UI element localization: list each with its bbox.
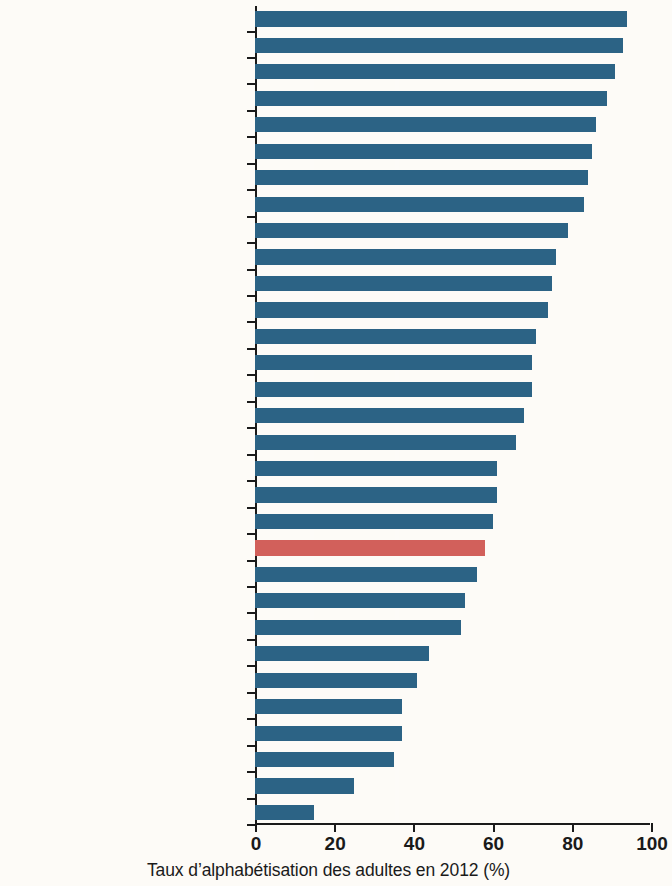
- bar: [255, 170, 588, 185]
- x-axis-tick-label: 20: [305, 833, 365, 855]
- x-axis-tick: [413, 823, 415, 832]
- chart-row: Malawi: [255, 456, 651, 482]
- chart-row: Cameroun: [255, 323, 651, 349]
- chart-row: Zambie: [255, 482, 651, 508]
- bar: [255, 805, 314, 820]
- chart-row: Togo: [255, 509, 651, 535]
- bar: [255, 620, 461, 635]
- bar: [255, 778, 354, 793]
- bar: [255, 673, 417, 688]
- y-axis-tick: [247, 507, 255, 509]
- bar: [255, 302, 548, 317]
- y-axis-tick: [247, 533, 255, 535]
- y-axis-tick: [247, 321, 255, 323]
- bar: [255, 117, 596, 132]
- chart-row: Afrique: [255, 535, 651, 561]
- bar: [255, 64, 615, 79]
- chart-row: Ouganda: [255, 271, 651, 297]
- chart-row: République du Congo: [255, 218, 651, 244]
- chart-row: Tchad: [255, 694, 651, 720]
- x-axis-tick-label: 80: [543, 833, 603, 855]
- x-axis-tick-label: 100: [622, 833, 672, 855]
- y-axis-tick: [247, 560, 255, 562]
- y-axis-tick: [247, 163, 255, 165]
- y-axis-tick: [247, 295, 255, 297]
- chart-row: Guinée équatoriale: [255, 6, 651, 32]
- y-axis-tick: [247, 189, 255, 191]
- x-axis-title: Taux d’alphabétisation des adultes en 20…: [0, 860, 657, 881]
- y-axis-tick: [247, 665, 255, 667]
- y-axis-tick: [247, 136, 255, 138]
- chart-row: Niger: [255, 800, 651, 826]
- chart-row: Érythrée: [255, 376, 651, 402]
- y-axis-tick: [247, 83, 255, 85]
- x-axis-tick: [493, 823, 495, 832]
- chart-row: Botswana: [255, 112, 651, 138]
- bar: [255, 329, 536, 344]
- x-axis-tick-label: 40: [384, 833, 444, 855]
- bar: [255, 726, 402, 741]
- y-axis-tick: [247, 718, 255, 720]
- plot-area: Guinée équatorialeAfrique du SudSeychell…: [255, 6, 651, 824]
- chart-row: Côte d’Ivoire: [255, 667, 651, 693]
- bar: [255, 752, 394, 767]
- y-axis-tick: [247, 480, 255, 482]
- y-axis-tick: [247, 31, 255, 33]
- chart-row: Zimbabwe: [255, 191, 651, 217]
- y-axis-tick: [247, 216, 255, 218]
- x-axis-tick: [255, 823, 257, 832]
- bar: [255, 38, 623, 53]
- y-axis-tick: [247, 639, 255, 641]
- chart-row: Seychelles: [255, 59, 651, 85]
- y-axis-tick: [247, 348, 255, 350]
- x-axis-tick-label: 0: [226, 833, 286, 855]
- y-axis-tick: [247, 57, 255, 59]
- chart-row: Sierra Leone: [255, 641, 651, 667]
- bar: [255, 408, 524, 423]
- y-axis-tick: [247, 269, 255, 271]
- bar: [255, 144, 592, 159]
- y-axis-tick: [247, 401, 255, 403]
- chart-row: République centrafricaine: [255, 720, 651, 746]
- chart-row: Afrique du Sud: [255, 32, 651, 58]
- x-axis-tick: [651, 823, 653, 832]
- bar: [255, 646, 429, 661]
- y-axis-tick: [247, 110, 255, 112]
- bar: [255, 249, 556, 264]
- chart-row: Cabo Verde: [255, 138, 651, 164]
- y-axis-tick: [247, 798, 255, 800]
- bar: [255, 699, 402, 714]
- chart-row: Gambie: [255, 614, 651, 640]
- chart-row: Rwanda: [255, 429, 651, 455]
- chart-row: Swaziland: [255, 165, 651, 191]
- x-axis-tick: [572, 823, 574, 832]
- bar: [255, 567, 477, 582]
- chart-row: Sénégal: [255, 588, 651, 614]
- y-axis-tick: [247, 771, 255, 773]
- bar: [255, 355, 532, 370]
- chart-row: Ghana: [255, 297, 651, 323]
- x-axis-line: [255, 823, 650, 825]
- bar: [255, 514, 493, 529]
- y-axis-tick: [247, 454, 255, 456]
- chart-row: Guinée-Bissau: [255, 561, 651, 587]
- chart-row: Angola: [255, 350, 651, 376]
- y-axis-tick: [247, 692, 255, 694]
- y-axis-tick: [247, 612, 255, 614]
- bar: [255, 11, 627, 26]
- bar: [255, 91, 607, 106]
- bar: [255, 435, 516, 450]
- chart-row: Tanzanie: [255, 403, 651, 429]
- chart-row: Comores: [255, 244, 651, 270]
- y-axis-tick: [247, 374, 255, 376]
- y-axis-tick: [247, 586, 255, 588]
- y-axis-tick: [247, 427, 255, 429]
- x-axis-tick-label: 60: [464, 833, 524, 855]
- bar: [255, 487, 497, 502]
- bar: [255, 593, 465, 608]
- bar: [255, 276, 552, 291]
- y-axis-tick: [247, 745, 255, 747]
- bar: [255, 223, 568, 238]
- bar-highlight: [255, 540, 485, 555]
